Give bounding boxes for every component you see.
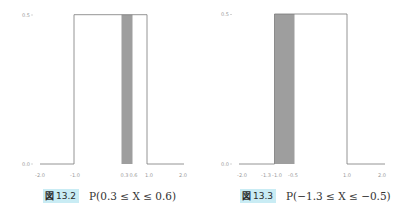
x-tick-label: -1.0: [70, 172, 80, 178]
figure-number: 13.2: [56, 191, 76, 201]
figure-number-badge: 図13.2: [43, 189, 79, 203]
y-tick-label: 0.5: [22, 12, 30, 18]
x-tick-label: -1.0: [272, 172, 282, 178]
x-tick-label: -2.0: [35, 172, 45, 178]
figure-13-3: 0.5 0.0 -2.0 -1.3 -1.0 -0.5 1.0 2.0 図13.…: [204, 0, 408, 211]
x-tick-label: -1.3: [261, 172, 271, 178]
y-tick-label: 0.5: [221, 11, 229, 17]
figure-prefix: 図: [242, 191, 251, 201]
figure-caption: 図13.2 P(0.3 ≤ X ≤ 0.6): [43, 189, 176, 203]
figure-13-2: 0.5 0.0 -2.0 -1.0 0.3 0.6 1.0 2.0 図13.2 …: [0, 0, 204, 211]
x-tick-label: 2.0: [179, 172, 187, 178]
x-tick-label: 0.3: [121, 172, 129, 178]
y-tick-label: 0.0: [22, 161, 30, 167]
density-line: [40, 15, 184, 164]
figure-prefix: 図: [45, 191, 54, 201]
x-tick-label: 1.0: [343, 172, 351, 178]
x-tick-label: 2.0: [378, 172, 386, 178]
density-plot: 0.5 0.0 -2.0 -1.3 -1.0 -0.5 1.0 2.0: [204, 0, 408, 185]
y-tick-label: 0.0: [221, 161, 229, 167]
x-tick-label: -0.5: [288, 172, 298, 178]
shaded-probability-region: [275, 14, 295, 164]
x-tick-label: -2.0: [237, 172, 247, 178]
shaded-probability-region: [122, 15, 133, 164]
figure-number-badge: 図13.3: [240, 189, 276, 203]
x-tick-label: 1.0: [145, 172, 153, 178]
uniform-density-plot: 0.5 0.0 -2.0 -1.0 0.3 0.6 1.0 2.0: [0, 0, 204, 185]
figure-caption: 図13.3 P(−1.3 ≤ X ≤ −0.5): [240, 189, 391, 203]
probability-formula: P(−1.3 ≤ X ≤ −0.5): [286, 190, 391, 202]
density-line: [239, 14, 385, 164]
probability-formula: P(0.3 ≤ X ≤ 0.6): [89, 190, 176, 202]
x-tick-label: 0.6: [130, 172, 138, 178]
figure-number: 13.3: [253, 191, 273, 201]
